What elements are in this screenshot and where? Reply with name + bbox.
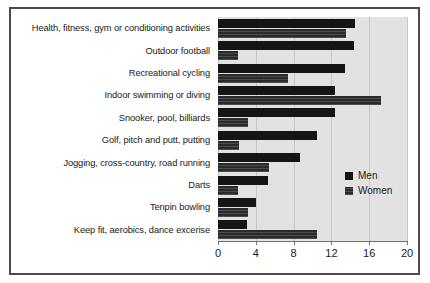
bar-women — [218, 96, 381, 105]
bar-group — [218, 107, 407, 129]
bar-women — [218, 51, 238, 60]
x-tick-label: 8 — [291, 247, 297, 259]
bar-women — [218, 29, 346, 38]
bar-men — [218, 108, 335, 117]
bar-group — [218, 219, 407, 241]
chart-legend: Men Women — [345, 170, 392, 196]
bar-women — [218, 118, 248, 127]
bar-men — [218, 41, 354, 50]
category-label: Tenpin bowling — [14, 196, 214, 218]
bar-men — [218, 198, 256, 207]
bar-men — [218, 220, 247, 229]
plot-area — [218, 17, 407, 241]
category-label: Snooker, pool, billiards — [14, 107, 214, 129]
bar-women — [218, 208, 248, 217]
bar-group — [218, 39, 407, 61]
category-label: Golf, pitch and putt, putting — [14, 129, 214, 151]
category-axis-labels: Health, fitness, gym or conditioning act… — [14, 17, 214, 241]
chart-figure: Health, fitness, gym or conditioning act… — [0, 0, 430, 283]
x-axis-tick-labels: 048121620 — [218, 247, 407, 263]
category-label: Keep fit, aerobics, dance excerise — [14, 219, 214, 241]
bar-men — [218, 131, 317, 140]
category-label: Health, fitness, gym or conditioning act… — [14, 17, 214, 39]
x-tick-label: 20 — [401, 247, 413, 259]
legend-swatch-women-icon — [345, 187, 353, 195]
x-tick-mark — [407, 241, 408, 245]
bar-group — [218, 196, 407, 218]
category-label: Jogging, cross-country, road running — [14, 151, 214, 173]
legend-item-men: Men — [345, 170, 392, 181]
bar-women — [218, 141, 239, 150]
bar-men — [218, 64, 345, 73]
bar-group — [218, 129, 407, 151]
bar-group — [218, 17, 407, 39]
bar-women — [218, 163, 269, 172]
category-label: Outdoor football — [14, 39, 214, 61]
x-tick-mark — [331, 241, 332, 245]
legend-item-women: Women — [345, 185, 392, 196]
bar-women — [218, 230, 317, 239]
bar-women — [218, 186, 238, 195]
bar-men — [218, 86, 335, 95]
legend-swatch-men-icon — [345, 172, 353, 180]
category-label: Indoor swimming or diving — [14, 84, 214, 106]
x-tick-label: 12 — [325, 247, 337, 259]
x-tick-label: 4 — [253, 247, 259, 259]
legend-label-men: Men — [358, 170, 377, 181]
bar-women — [218, 74, 288, 83]
x-tick-mark — [256, 241, 257, 245]
category-label: Recreational cycling — [14, 62, 214, 84]
grouped-bar-chart: Health, fitness, gym or conditioning act… — [0, 0, 430, 283]
legend-label-women: Women — [358, 185, 392, 196]
gridline — [407, 17, 408, 241]
bar-men — [218, 19, 355, 28]
x-tick-label: 16 — [363, 247, 375, 259]
category-label: Darts — [14, 174, 214, 196]
bar-men — [218, 176, 268, 185]
bar-groups — [218, 17, 407, 241]
x-tick-mark — [294, 241, 295, 245]
bar-group — [218, 62, 407, 84]
x-tick-mark — [369, 241, 370, 245]
x-tick-mark — [218, 241, 219, 245]
x-axis-line — [218, 241, 407, 242]
bar-group — [218, 84, 407, 106]
bar-men — [218, 153, 300, 162]
x-tick-label: 0 — [215, 247, 221, 259]
